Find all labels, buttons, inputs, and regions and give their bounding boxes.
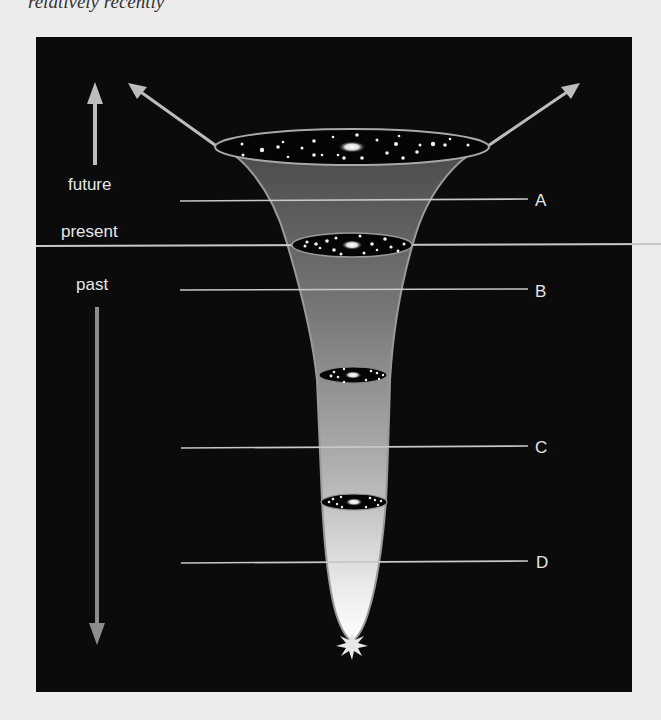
galaxy-disk-past-1 <box>319 367 387 383</box>
expanding-universe-diagram <box>0 0 661 720</box>
marker-label-b: B <box>535 282 546 302</box>
past-label: past <box>76 275 108 295</box>
future-label: future <box>68 175 111 195</box>
present-label: present <box>61 222 118 242</box>
galaxy-disk-future <box>215 129 489 165</box>
past-arrow-icon <box>89 307 105 645</box>
marker-line-d <box>181 561 528 563</box>
expansion-arrow-left-icon <box>128 83 222 150</box>
marker-label-d: D <box>536 553 548 573</box>
marker-line-b <box>180 289 528 290</box>
marker-label-c: C <box>535 438 547 458</box>
universe-funnel <box>215 147 490 642</box>
future-arrow-icon <box>87 82 103 165</box>
marker-line-c <box>181 446 528 448</box>
galaxy-disk-present <box>292 233 412 257</box>
marker-line-a <box>180 199 528 201</box>
marker-label-a: A <box>535 191 546 211</box>
galaxy-disk-past-2 <box>321 494 387 510</box>
expansion-arrow-right-icon <box>482 83 580 150</box>
big-bang-star-icon <box>336 633 368 660</box>
